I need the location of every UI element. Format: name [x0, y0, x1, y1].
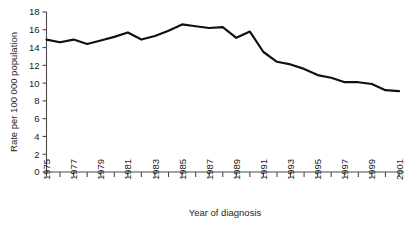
x-tick-label: 1983 [150, 159, 161, 180]
x-tick-label: 1991 [258, 159, 269, 180]
x-tick-label: 1975 [41, 159, 52, 180]
y-axis-title: Rate per 100 000 population [8, 32, 19, 152]
y-tick-label: 18 [29, 6, 40, 17]
y-tick-label: 10 [29, 78, 40, 89]
x-axis-title: Year of diagnosis [189, 207, 262, 218]
y-tick-label: 8 [34, 95, 39, 106]
y-tick-label: 14 [29, 42, 40, 53]
y-tick-label: 6 [34, 113, 39, 124]
x-tick-label: 1997 [339, 159, 350, 180]
y-tick-label: 12 [29, 60, 40, 71]
y-axis-ticks: 024681012141618 [29, 6, 47, 177]
data-series-line [47, 24, 400, 91]
x-tick-label: 1985 [177, 159, 188, 180]
y-tick-label: 2 [34, 149, 39, 160]
line-chart: 024681012141618 197519771979198119831985… [0, 0, 420, 227]
y-tick-label: 16 [29, 24, 40, 35]
x-tick-label: 1989 [231, 159, 242, 180]
x-tick-label: 1979 [95, 159, 106, 180]
x-tick-label: 1981 [122, 159, 133, 180]
x-tick-label: 2001 [394, 159, 405, 180]
x-tick-label: 1977 [68, 159, 79, 180]
plot-area: 024681012141618 197519771979198119831985… [29, 6, 405, 180]
y-tick-label: 0 [34, 166, 39, 177]
x-tick-label: 1987 [204, 159, 215, 180]
x-axis-ticks: 1975197719791981198319851987198919911993… [41, 159, 405, 180]
x-tick-label: 1993 [285, 159, 296, 180]
x-tick-label: 1995 [312, 159, 323, 180]
y-tick-label: 4 [34, 131, 39, 142]
chart-page: 024681012141618 197519771979198119831985… [0, 0, 420, 227]
x-tick-label: 1999 [366, 159, 377, 180]
